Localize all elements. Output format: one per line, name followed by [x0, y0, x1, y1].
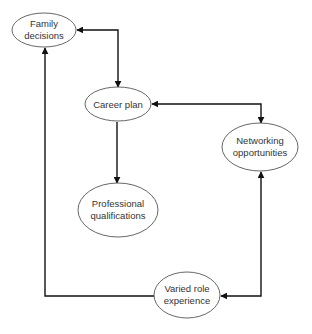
edge-family-career: [77, 30, 118, 87]
svg-text:Networking: Networking: [236, 135, 284, 146]
svg-text:qualifications: qualifications: [91, 210, 146, 221]
svg-text:Professional: Professional: [92, 198, 144, 209]
node-label: Varied role: [164, 283, 209, 294]
svg-text:Family: Family: [30, 18, 58, 29]
edge-networking-varied: [221, 172, 261, 296]
node-label: Family: [30, 18, 58, 29]
node-label: decisions: [24, 30, 64, 41]
svg-text:opportunities: opportunities: [233, 147, 288, 158]
node-label: opportunities: [233, 147, 288, 158]
edge-career-networking: [152, 104, 261, 123]
svg-text:Career plan: Career plan: [93, 99, 143, 110]
career-diagram: Family decisions Career plan Networking …: [0, 0, 312, 334]
node-label: experience: [164, 295, 210, 306]
node-label: Professional: [92, 198, 144, 209]
node-career-plan: Career plan: [85, 87, 151, 121]
node-networking-opportunities: Networking opportunities: [222, 123, 298, 171]
node-label: Career plan: [93, 99, 143, 110]
node-label: qualifications: [91, 210, 146, 221]
node-label: Networking: [236, 135, 284, 146]
node-family-decisions: Family decisions: [12, 13, 76, 47]
edge-varied-family: [45, 48, 154, 296]
node-varied-role-experience: Varied role experience: [154, 272, 220, 318]
node-professional-qualifications: Professional qualifications: [78, 183, 158, 237]
svg-text:Varied role: Varied role: [164, 283, 209, 294]
svg-text:decisions: decisions: [24, 30, 64, 41]
svg-text:experience: experience: [164, 295, 210, 306]
